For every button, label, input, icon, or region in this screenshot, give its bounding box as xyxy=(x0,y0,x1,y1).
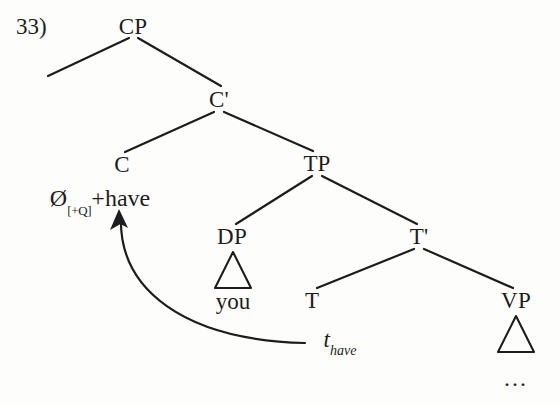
c-head-terminal: Ø[+Q]+have xyxy=(50,186,150,214)
branch-tp-to-dp xyxy=(236,176,312,224)
syntax-tree-figure: 33) CP C' C TP DP T' T VP Ø[+Q]+have you… xyxy=(0,0,560,405)
node-c: C xyxy=(114,153,130,176)
node-dp: DP xyxy=(217,225,247,248)
trace-subscript: have xyxy=(330,343,356,358)
null-complementizer-symbol: Ø xyxy=(50,185,67,211)
example-number: 33) xyxy=(16,15,47,38)
branch-cp-to-spec xyxy=(48,38,129,76)
trace-terminal: thave xyxy=(324,328,357,356)
phrase-triangles xyxy=(215,252,534,352)
dp-terminal-you: you xyxy=(216,290,251,313)
branch-cbar-to-c xyxy=(125,112,214,152)
movement-arrow-group xyxy=(110,209,305,343)
vp-triangle xyxy=(498,316,534,352)
node-cp: CP xyxy=(119,15,148,38)
branch-cp-to-cbar xyxy=(138,38,221,86)
branch-tp-to-tbar xyxy=(322,176,417,224)
branch-cbar-to-tp xyxy=(224,112,313,151)
head-movement-arrow-path xyxy=(121,216,305,343)
vp-terminal-ellipsis: ... xyxy=(504,366,528,390)
branch-tbar-to-vp xyxy=(424,249,513,288)
node-t-bar: T' xyxy=(410,225,429,248)
head-suffix: +have xyxy=(91,185,150,211)
node-tp: TP xyxy=(303,152,330,175)
q-feature-subscript: [+Q] xyxy=(67,203,91,218)
node-vp: VP xyxy=(501,289,531,312)
node-t: T xyxy=(305,289,319,312)
dp-triangle xyxy=(215,252,251,288)
node-c-bar: C' xyxy=(209,88,229,111)
branch-tbar-to-t xyxy=(317,249,414,288)
